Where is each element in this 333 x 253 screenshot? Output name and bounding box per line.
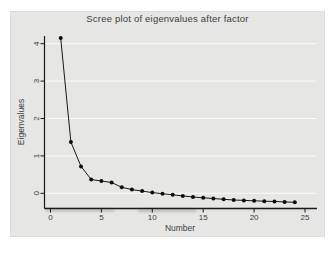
svg-text:15: 15 bbox=[199, 213, 208, 222]
svg-text:25: 25 bbox=[301, 213, 310, 222]
svg-text:4: 4 bbox=[32, 41, 41, 46]
svg-text:1: 1 bbox=[32, 153, 41, 158]
chart-title: Scree plot of eigenvalues after factor bbox=[10, 13, 325, 24]
y-axis-label: Eigenvalues bbox=[16, 99, 26, 145]
svg-text:10: 10 bbox=[148, 213, 157, 222]
svg-text:0: 0 bbox=[48, 213, 53, 222]
svg-text:20: 20 bbox=[250, 213, 259, 222]
gridlines bbox=[45, 44, 317, 194]
svg-text:3: 3 bbox=[32, 78, 41, 83]
graph-window: 012340510152025 Scree plot of eigenvalue… bbox=[0, 0, 333, 253]
svg-text:5: 5 bbox=[99, 213, 104, 222]
eigenvalue-series bbox=[59, 36, 297, 204]
x-axis-label: Number bbox=[165, 223, 195, 233]
axis-ticks bbox=[41, 44, 306, 213]
axes bbox=[45, 36, 318, 209]
svg-text:2: 2 bbox=[32, 116, 41, 121]
svg-text:0: 0 bbox=[32, 191, 41, 196]
scree-plot-canvas: 012340510152025 bbox=[0, 0, 333, 253]
